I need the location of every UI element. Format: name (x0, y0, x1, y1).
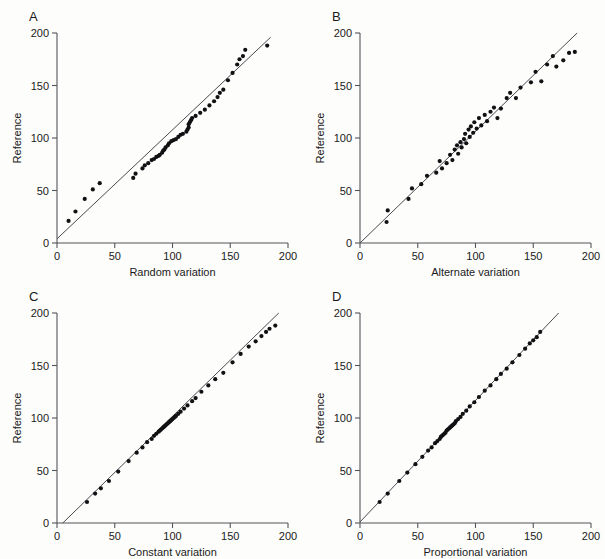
data-point (458, 140, 462, 144)
x-tick-label: 100 (466, 250, 484, 262)
data-point (455, 143, 459, 147)
data-point (539, 79, 543, 83)
data-point (425, 174, 429, 178)
data-point (133, 172, 137, 176)
data-point (523, 347, 527, 351)
data-point (554, 65, 558, 69)
data-point (254, 339, 258, 343)
x-tick-label: 200 (582, 250, 600, 262)
data-point (178, 410, 182, 414)
data-point (207, 103, 211, 107)
x-tick-label: 0 (357, 250, 363, 262)
data-point (146, 161, 150, 165)
data-point (413, 462, 417, 466)
y-tick-label: 0 (346, 517, 352, 529)
data-point (495, 116, 499, 120)
data-point (461, 412, 465, 416)
data-point (573, 50, 577, 54)
data-point (241, 54, 245, 58)
x-tick-label: 50 (412, 250, 424, 262)
data-point (265, 44, 269, 48)
y-tick-label: 200 (31, 307, 49, 319)
data-point (230, 71, 234, 75)
y-tick-label: 150 (334, 80, 352, 92)
data-point (83, 197, 87, 201)
plot-D: D050100150200050100150200Proportional va… (303, 280, 605, 559)
y-tick-label: 50 (340, 185, 352, 197)
x-tick-label: 150 (524, 250, 542, 262)
data-point (264, 330, 268, 334)
x-tick-label: 150 (221, 530, 239, 542)
data-point (488, 383, 492, 387)
data-point (99, 486, 103, 490)
panel-letter: A (29, 9, 38, 24)
y-tick-label: 200 (31, 27, 49, 39)
data-point (420, 455, 424, 459)
x-axis-title: Random variation (129, 266, 215, 278)
data-point (517, 353, 521, 357)
data-point (533, 70, 537, 74)
data-point (212, 99, 216, 103)
panel-D: D050100150200050100150200Proportional va… (303, 280, 605, 559)
y-tick-label: 0 (43, 237, 49, 249)
y-axis-title: Reference (314, 113, 326, 164)
data-point (91, 187, 95, 191)
data-point (464, 409, 468, 413)
data-point (259, 334, 263, 338)
x-tick-label: 150 (221, 250, 239, 262)
data-point (190, 399, 194, 403)
data-point (551, 54, 555, 58)
data-point (185, 403, 189, 407)
data-point (131, 176, 135, 180)
data-point (194, 396, 198, 400)
plot-A: A050100150200050100150200Random variatio… (0, 0, 302, 279)
data-point (483, 113, 487, 117)
data-point (221, 371, 225, 375)
data-point (116, 469, 120, 473)
x-tick-label: 200 (279, 250, 297, 262)
data-point (194, 114, 198, 118)
x-axis-title: Alternate variation (431, 266, 520, 278)
data-point (445, 161, 449, 165)
data-point (145, 440, 149, 444)
regression-line (57, 37, 271, 239)
y-tick-label: 100 (334, 412, 352, 424)
data-point (477, 116, 481, 120)
data-point (469, 124, 473, 128)
data-point (440, 166, 444, 170)
data-point (273, 324, 277, 328)
x-tick-label: 50 (109, 250, 121, 262)
data-point (453, 147, 457, 151)
data-point (488, 110, 492, 114)
data-point (464, 141, 468, 145)
data-point (237, 57, 241, 61)
panel-letter: B (332, 9, 341, 24)
data-point (499, 107, 503, 111)
data-point (471, 131, 475, 135)
data-point (384, 220, 388, 224)
data-point (472, 400, 476, 404)
scatter-points (66, 44, 269, 224)
data-point (215, 95, 219, 99)
plot-B: B050100150200050100150200Alternate varia… (303, 0, 605, 279)
x-tick-label: 200 (279, 530, 297, 542)
data-point (468, 135, 472, 139)
data-point (226, 78, 230, 82)
data-point (203, 108, 207, 112)
y-tick-label: 100 (334, 132, 352, 144)
y-tick-label: 200 (334, 307, 352, 319)
y-tick-label: 150 (31, 360, 49, 372)
data-point (206, 383, 210, 387)
x-tick-label: 200 (582, 530, 600, 542)
data-point (485, 119, 489, 123)
data-point (514, 96, 518, 100)
data-point (450, 158, 454, 162)
data-point (397, 479, 401, 483)
data-point (528, 341, 532, 345)
data-point (66, 219, 70, 223)
data-point (518, 86, 522, 90)
data-point (267, 327, 271, 331)
y-tick-label: 150 (31, 80, 49, 92)
x-tick-label: 50 (109, 530, 121, 542)
x-tick-label: 0 (54, 530, 60, 542)
